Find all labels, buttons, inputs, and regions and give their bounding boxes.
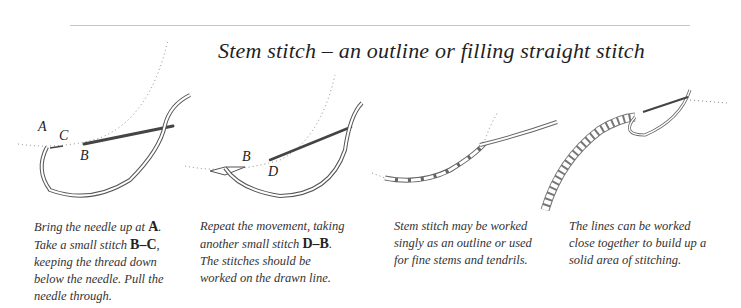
label-b: B — [242, 149, 251, 164]
step3-caption: Stem stitch may be worked singly as an o… — [394, 218, 544, 269]
point-label: A — [148, 219, 158, 234]
step1-caption: Bring the needle up at A. Take a small s… — [34, 218, 184, 305]
step3-illustration — [372, 112, 557, 180]
header-rule — [70, 25, 690, 26]
needle-icon — [270, 127, 351, 160]
point-label: B–C — [130, 237, 156, 252]
point-label: D–B — [302, 236, 328, 251]
stitch-illustrations: A C B B D — [0, 30, 741, 215]
step1-illustration: A C B — [18, 40, 190, 196]
step4-caption: The lines can be worked close together t… — [569, 218, 719, 269]
step2-caption: Repeat the movement, taking another smal… — [200, 218, 350, 287]
label-c: C — [59, 128, 69, 143]
label-d: D — [267, 164, 278, 179]
step2-illustration: B D — [185, 75, 362, 196]
label-a: A — [37, 119, 47, 134]
step4-illustration — [545, 90, 727, 210]
label-b: B — [80, 148, 89, 163]
